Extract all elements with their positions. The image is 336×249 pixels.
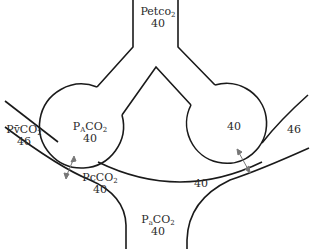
airway-bifurcation [122, 67, 191, 115]
arterial-co2-label: PaCO2 40 [136, 214, 180, 238]
right-alveolus-co2-value: 40 [222, 121, 246, 133]
end-tidal-co2-label: Petco2 40 [138, 6, 178, 30]
airway-right-wall [178, 0, 215, 85]
airway-left-wall [97, 0, 133, 87]
arterial-co2-value: 40 [136, 226, 180, 238]
capillary-co2-value: 40 [78, 184, 122, 196]
end-tidal-co2-value: 40 [138, 18, 178, 30]
mixed-venous-co2-value: 46 [2, 136, 46, 148]
capillary-co2-label: PcCO2 40 [78, 172, 122, 196]
capillary-outer-right [187, 148, 309, 249]
right-venous-co2-value: 46 [282, 124, 306, 136]
alveolar-co2-label: PACO2 40 [68, 121, 112, 145]
alveolar-co2-value: 40 [68, 133, 112, 145]
right-capillary-co2-value: 40 [189, 178, 213, 190]
capillary-inner-wall [98, 162, 262, 182]
mixed-venous-co2-label: Pv̄CO2 46 [2, 124, 46, 148]
